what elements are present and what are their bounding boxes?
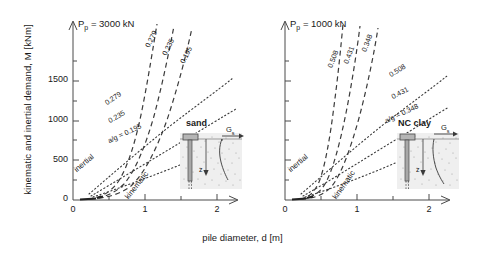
z-label-left: z (199, 166, 203, 173)
origin-cluster-left (80, 197, 103, 200)
gs-sub-left: s (232, 130, 235, 136)
inset-pile-cap-right (400, 134, 415, 140)
soil-label-sand: sand (186, 118, 207, 128)
inset-pile-cap (183, 134, 198, 140)
figure-root: kinematic and inertial demand, M [kNm] p… (0, 0, 485, 255)
origin-cluster-right (292, 197, 313, 200)
panel-nc-clay: Pp = 1000 kN 0 1 2 (242, 0, 485, 222)
inset-nc-clay (397, 132, 459, 189)
gs-sub-right: s (447, 128, 450, 134)
inset-sand (180, 133, 244, 189)
gs-label-right: Gs (441, 123, 450, 134)
z-label-right: z (416, 166, 420, 173)
inset-pile-shaft-right (405, 140, 409, 181)
inset-pile-shaft (188, 140, 192, 181)
panel-sand: Pp = 3000 kN 1500 1000 500 0 0 1 2 (0, 0, 243, 222)
gs-label-left: Gs (226, 125, 235, 136)
x-axis-title: pile diameter, d [m] (0, 232, 485, 243)
plot-area-right (242, 0, 485, 222)
soil-label-nc-clay: NC clay (398, 118, 431, 128)
